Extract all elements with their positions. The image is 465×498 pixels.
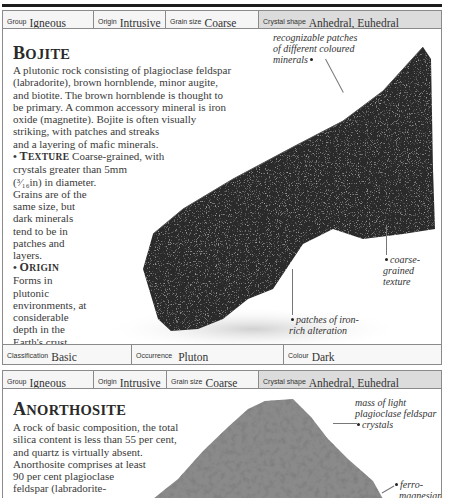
- occurrence-cell: OccurrencePluton: [132, 345, 284, 364]
- anorthosite-panel: ANORTHOSITE A rock of basic composition,…: [2, 389, 442, 498]
- leader-line: [386, 225, 387, 255]
- anorthosite-origin-cell: OriginIntrusive: [94, 371, 167, 388]
- colour-cell: ColourDark: [284, 345, 441, 364]
- origin-label: Origin: [98, 18, 117, 25]
- grain-size-label: Grain size: [170, 18, 202, 25]
- anorthosite-description: A rock of basic composition, the total s…: [13, 421, 203, 498]
- origin-value: Intrusive: [120, 17, 161, 28]
- annotation-ferro-magnesian: ferro- magnesian: [393, 479, 442, 498]
- classification-cell: ClassificationBasic: [3, 345, 132, 364]
- anorthosite-grain-size-cell: Grain sizeCoarse: [167, 371, 259, 388]
- annotation-plagioclase-mass: mass of light plagioclase feldspar cryst…: [355, 397, 436, 430]
- grain-size-value: Coarse: [205, 17, 237, 28]
- bojite-group-cell: GroupIgneous: [3, 11, 94, 28]
- annotation-coloured-patches: recognizable patches of different colour…: [273, 32, 357, 65]
- bojite-description: A plutonic rock consisting of plagioclas…: [13, 64, 263, 150]
- bojite-property-footer: ClassificationBasic OccurrencePluton Col…: [2, 344, 442, 365]
- bojite-panel: BOJITE A plutonic rock consisting of pla…: [2, 29, 442, 345]
- anorthosite-property-header: GroupIgneous OriginIntrusive Grain sizeC…: [2, 370, 442, 389]
- bojite-origin-section: • ORIGIN Forms in plutonic environments,…: [13, 261, 103, 345]
- bojite-origin-cell: OriginIntrusive: [94, 11, 166, 28]
- bojite-grain-size-cell: Grain sizeCoarse: [166, 11, 259, 28]
- crystal-shape-label: Crystal shape: [263, 18, 306, 25]
- annotation-iron-alteration: patches of iron- rich alteration: [289, 314, 359, 336]
- leader-line: [292, 269, 293, 315]
- texture-heading: TEXTURE: [20, 152, 70, 162]
- bojite-crystal-shape-cell: Crystal shapeAnhedral, Euhedral: [259, 11, 441, 28]
- group-value: Igneous: [29, 17, 65, 28]
- group-label: Group: [7, 18, 26, 25]
- crystal-shape-value: Anhedral, Euhedral: [309, 17, 399, 28]
- bojite-texture-section: • TEXTURE Coarse-grained, with crystals …: [13, 150, 213, 262]
- anorthosite-title: ANORTHOSITE: [13, 399, 126, 420]
- anorthosite-group-cell: GroupIgneous: [3, 371, 94, 388]
- bojite-title: BOJITE: [13, 43, 70, 64]
- leader-line: [333, 423, 357, 424]
- annotation-coarse-grained: coarse-grained texture: [383, 254, 441, 287]
- anorthosite-crystal-shape-cell: Crystal shapeAnhedral, Euhedral: [259, 371, 441, 388]
- origin-heading: ORIGIN: [20, 263, 60, 273]
- top-rule: [2, 4, 442, 7]
- bojite-property-header: GroupIgneous OriginIntrusive Grain sizeC…: [2, 10, 442, 29]
